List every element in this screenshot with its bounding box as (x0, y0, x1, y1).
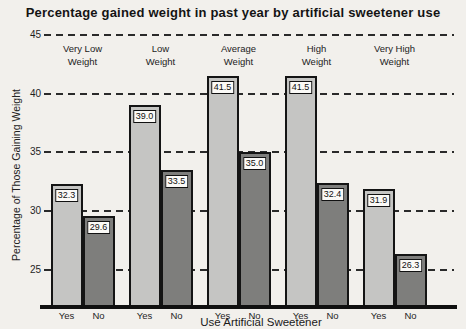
bar-no-very-low-weight: 29.6 (83, 216, 115, 307)
group-label: Very LowWeight (43, 42, 123, 68)
bar-axis-label-no: No (326, 310, 338, 321)
bar-no-high-weight: 32.4 (317, 183, 349, 307)
y-tick-label: 45 (11, 29, 41, 40)
bar-value-label: 35.0 (243, 157, 267, 170)
bar-axis-label-no: No (404, 310, 416, 321)
bar-value-label: 39.0 (133, 110, 157, 123)
bar-axis-label-yes: Yes (59, 310, 75, 321)
group-label-line: Low (121, 42, 201, 55)
bar-axis-label-no: No (92, 310, 104, 321)
y-tick-label: 25 (11, 264, 41, 275)
plot-area: 4540353025Very LowWeightLowWeightAverage… (0, 0, 466, 329)
bar-yes-average-weight: 41.5 (207, 76, 239, 307)
y-tick-label: 40 (11, 88, 41, 99)
group-label-line: Weight (355, 55, 435, 68)
chart-page: Percentage gained weight in past year by… (0, 0, 466, 329)
bar-value-label: 31.9 (367, 194, 391, 207)
bar-value-label: 29.6 (87, 221, 111, 234)
bar-no-low-weight: 33.5 (161, 170, 193, 307)
bar-value-label: 33.5 (165, 175, 189, 188)
bar-no-average-weight: 35.0 (239, 152, 271, 307)
group-label-line: Weight (43, 55, 123, 68)
bar-yes-very-high-weight: 31.9 (363, 189, 395, 307)
group-label: AverageWeight (199, 42, 279, 68)
x-axis-line (40, 305, 457, 309)
group-label-line: Very High (355, 42, 435, 55)
group-label-line: High (277, 42, 357, 55)
bar-value-label: 41.5 (211, 81, 235, 94)
bar-value-label: 32.4 (321, 188, 345, 201)
group-label-line: Weight (277, 55, 357, 68)
y-tick-label: 35 (11, 146, 41, 157)
gridline-y40 (44, 93, 454, 95)
group-label-line: Weight (121, 55, 201, 68)
bar-no-very-high-weight: 26.3 (395, 254, 427, 307)
group-label-line: Weight (199, 55, 279, 68)
y-tick-label: 30 (11, 205, 41, 216)
bar-axis-label-no: No (170, 310, 182, 321)
gridline-y45 (44, 34, 454, 36)
bar-yes-very-low-weight: 32.3 (51, 184, 83, 307)
bar-value-label: 32.3 (55, 189, 79, 202)
bar-yes-high-weight: 41.5 (285, 76, 317, 307)
x-axis-label: Use Artificial Sweetener (200, 316, 321, 328)
group-label: LowWeight (121, 42, 201, 68)
bar-axis-label-yes: Yes (371, 310, 387, 321)
group-label-line: Very Low (43, 42, 123, 55)
group-label: Very HighWeight (355, 42, 435, 68)
bar-value-label: 41.5 (289, 81, 313, 94)
bar-axis-label-yes: Yes (137, 310, 153, 321)
bar-yes-low-weight: 39.0 (129, 105, 161, 307)
group-label-line: Average (199, 42, 279, 55)
group-label: HighWeight (277, 42, 357, 68)
bar-value-label: 26.3 (399, 259, 423, 272)
